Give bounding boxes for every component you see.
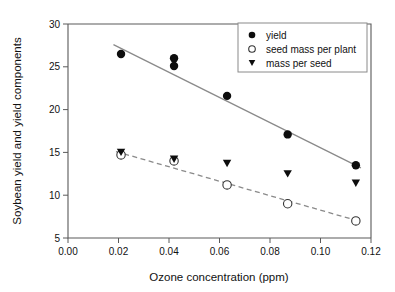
data-point-open-circle <box>352 217 360 225</box>
data-point-filled-circle <box>283 130 291 138</box>
legend-label: yield <box>266 30 287 41</box>
x-tick-label: 0.08 <box>260 246 280 257</box>
x-tick-label: 0.12 <box>361 246 381 257</box>
y-axis-title: Soybean yield and yield components <box>11 37 23 225</box>
y-tick-label: 25 <box>49 61 61 72</box>
x-tick-label: 0.10 <box>311 246 331 257</box>
chart-figure: 0.000.020.040.060.080.100.12 51015202530… <box>0 0 395 292</box>
x-tick-label: 0.06 <box>210 246 230 257</box>
x-tick-label: 0.00 <box>58 246 78 257</box>
data-point-open-circle <box>283 200 291 208</box>
data-point-filled-circle <box>170 54 178 62</box>
data-point-filled-circle <box>170 62 178 70</box>
data-point-filled-circle <box>223 92 231 100</box>
data-point-filled-circle <box>352 161 360 169</box>
legend-label: seed mass per plant <box>266 44 356 55</box>
y-tick-label: 15 <box>49 147 61 158</box>
legend-marker-open-circle <box>249 46 256 53</box>
x-tick-label: 0.02 <box>109 246 129 257</box>
data-point-open-circle <box>223 181 231 189</box>
x-axis-title: Ozone concentration (ppm) <box>149 271 289 283</box>
y-tick-label: 30 <box>49 19 61 30</box>
chart-legend[interactable]: yieldseed mass per plantmass per seed <box>238 23 367 72</box>
y-tick-label: 10 <box>49 190 61 201</box>
y-tick-label: 5 <box>54 233 60 244</box>
scatter-plot-svg: 0.000.020.040.060.080.100.12 51015202530… <box>0 0 395 292</box>
y-tick-label: 20 <box>49 104 61 115</box>
legend-marker-filled-circle <box>249 32 256 39</box>
x-tick-label: 0.04 <box>159 246 179 257</box>
legend-label: mass per seed <box>266 58 332 69</box>
data-point-filled-circle <box>117 50 125 58</box>
